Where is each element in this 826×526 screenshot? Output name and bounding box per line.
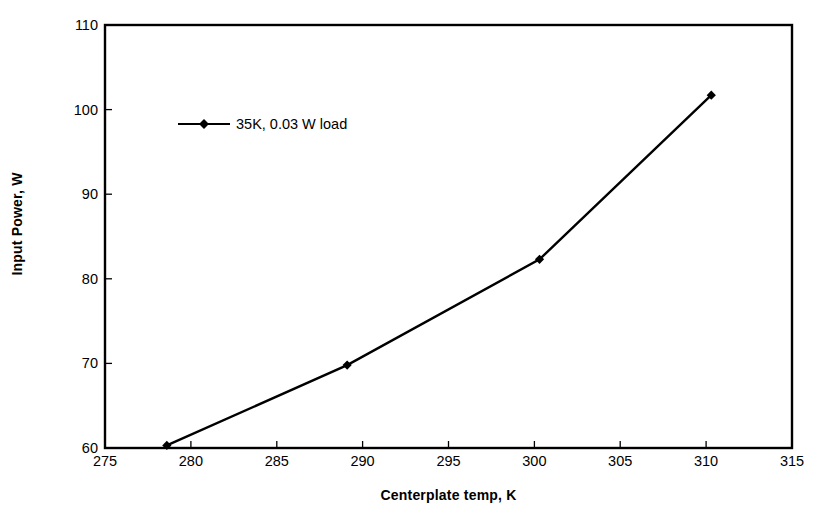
- plot-svg: [0, 0, 826, 526]
- x-tick-label: 300: [504, 454, 564, 469]
- x-tick-label: 315: [762, 454, 822, 469]
- data-point-marker: [343, 360, 352, 369]
- x-tick-label: 305: [590, 454, 650, 469]
- x-tick-label: 275: [75, 454, 135, 469]
- x-tick-label: 310: [676, 454, 736, 469]
- plot-frame: [105, 25, 792, 448]
- x-tick-label: 285: [247, 454, 307, 469]
- x-axis-title: Centerplate temp, K: [105, 487, 792, 503]
- series-line: [167, 95, 711, 445]
- x-tick-label: 290: [333, 454, 393, 469]
- legend-line-swatch: [178, 123, 230, 125]
- chart-container: Input Power, W 110 100 90 80 70 60: [0, 0, 826, 526]
- x-tick-label: 280: [161, 454, 221, 469]
- x-tick-label: 295: [419, 454, 479, 469]
- data-series-35k: [162, 91, 716, 450]
- legend-entry-label: 35K, 0.03 W load: [236, 116, 347, 132]
- legend-diamond-marker: [199, 119, 209, 129]
- chart-legend: 35K, 0.03 W load: [178, 113, 347, 135]
